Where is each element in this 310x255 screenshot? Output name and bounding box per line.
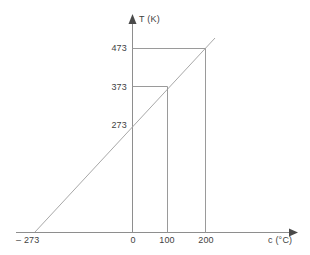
y-axis-arrow-icon — [129, 14, 137, 24]
y-tick-label-273: 273 — [101, 121, 127, 130]
x-axis-title: c (°C) — [268, 236, 292, 245]
chart-canvas: T (K) c (°C) 473 373 273 – 273 0 100 200 — [0, 0, 310, 255]
x-tick-label-100: 100 — [159, 236, 175, 245]
x-tick-label-200: 200 — [198, 236, 214, 245]
y-tick-label-473: 473 — [101, 44, 127, 53]
x-tick-label-0: 0 — [130, 236, 135, 245]
x-tick-label-minus-273: – 273 — [16, 236, 40, 245]
y-tick-label-373: 373 — [101, 83, 127, 92]
y-axis-title: T (K) — [139, 15, 160, 24]
data-series-line — [35, 38, 215, 232]
temperature-conversion-plot — [0, 0, 310, 255]
